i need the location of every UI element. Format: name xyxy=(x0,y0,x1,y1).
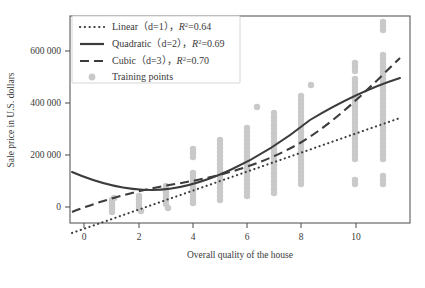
legend-label-quadratic: Quadratic（d=2），R2=0.69 xyxy=(112,38,225,49)
x-tick-label: 4 xyxy=(191,232,196,242)
x-tick-label: 2 xyxy=(137,232,142,242)
scatter-column xyxy=(271,110,277,196)
x-tick-label: 10 xyxy=(351,232,361,242)
legend-degree-cubic: d=3 xyxy=(146,55,162,66)
y-tick-label: 400 000 xyxy=(30,98,61,108)
y-tick-label: 600 000 xyxy=(30,46,61,56)
legend-degree-quadratic: d=2 xyxy=(161,38,177,49)
legend-r2-value-quadratic: =0.69 xyxy=(201,38,224,49)
legend-text-linear: Linear xyxy=(112,21,139,32)
legend-paren-open: （ xyxy=(138,21,148,32)
legend-r2-symbol: R xyxy=(178,21,185,32)
legend-label-linear: Linear（d=1），R2=0.64 xyxy=(112,21,211,32)
y-axis-ticks xyxy=(65,51,70,207)
legend-paren-open: （ xyxy=(136,55,146,66)
legend-text-cubic: Cubic xyxy=(112,55,136,66)
x-tick-label: 8 xyxy=(299,232,304,242)
scatter-column xyxy=(217,137,223,203)
figure-canvas: 0 2 4 6 8 10 0 200 000 400 000 600 000 O… xyxy=(0,0,425,288)
legend: Linear（d=1），R2=0.64 Quadratic（d=2），R2=0.… xyxy=(72,16,240,83)
x-axis-tick-labels: 0 2 4 6 8 10 xyxy=(82,232,361,242)
legend-comma: ， xyxy=(167,55,177,66)
y-axis-title: Sale price in U.S. dollars xyxy=(6,72,16,167)
y-tick-label: 0 xyxy=(56,202,61,212)
x-axis-ticks xyxy=(84,223,356,228)
legend-r2-value-cubic: =0.70 xyxy=(186,55,209,66)
legend-r2-symbol: R xyxy=(191,38,198,49)
legend-label-cubic: Cubic（d=3），R2=0.70 xyxy=(112,55,209,66)
legend-text-quadratic: Quadratic xyxy=(112,38,152,49)
x-tick-label: 6 xyxy=(245,232,250,242)
legend-comma: ， xyxy=(182,38,192,49)
chart-svg: 0 2 4 6 8 10 0 200 000 400 000 600 000 O… xyxy=(0,0,425,288)
x-tick-label: 0 xyxy=(82,232,87,242)
x-axis-title: Overall quality of the house xyxy=(187,250,293,260)
legend-comma: ， xyxy=(169,21,179,32)
legend-label-training-points: Training points xyxy=(112,71,173,82)
legend-r2-symbol: R xyxy=(176,55,183,66)
legend-r2-value-linear: =0.64 xyxy=(188,21,211,32)
scatter-column xyxy=(190,146,196,206)
legend-swatch-training-points xyxy=(89,74,96,81)
y-tick-label: 200 000 xyxy=(30,150,61,160)
legend-paren-open: （ xyxy=(151,38,161,49)
legend-degree-linear: d=1 xyxy=(148,21,164,32)
y-axis-tick-labels: 0 200 000 400 000 600 000 xyxy=(30,46,61,212)
